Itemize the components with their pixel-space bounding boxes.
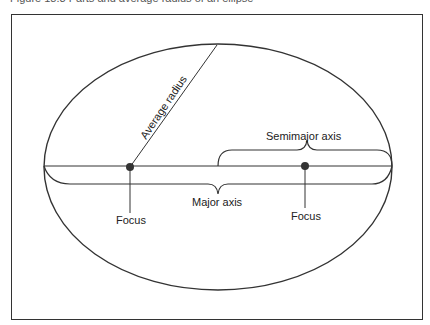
focus-label-left: Focus xyxy=(116,214,146,226)
average-radius-label: Average radius xyxy=(138,73,189,141)
ellipse-diagram: Average radius Semimajor axis Major axis… xyxy=(0,0,430,325)
major-axis-brace xyxy=(44,166,392,194)
ellipse xyxy=(44,44,392,290)
average-radius-line xyxy=(130,45,217,167)
focus-label-right: Focus xyxy=(291,210,321,222)
semimajor-axis-label: Semimajor axis xyxy=(266,130,342,142)
major-axis-label: Major axis xyxy=(192,196,243,208)
